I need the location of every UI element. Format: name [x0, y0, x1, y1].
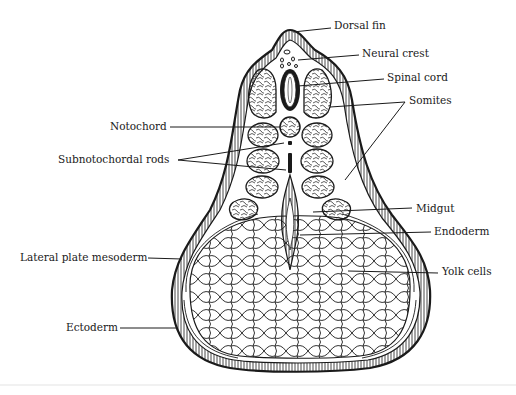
label-dorsal-fin: Dorsal fin [334, 20, 386, 31]
label-yolk-cells: Yolk cells [442, 266, 492, 277]
label-lateral-plate-mesoderm: Lateral plate mesoderm [20, 252, 148, 263]
label-somites: Somites [409, 95, 452, 106]
label-midgut: Midgut [416, 203, 455, 214]
label-endoderm: Endoderm [434, 226, 489, 237]
page-edge-line [0, 384, 516, 386]
spinal-cord [280, 69, 300, 111]
notochord [280, 117, 300, 137]
label-notochord: Notochord [110, 121, 167, 132]
label-neural-crest: Neural crest [362, 48, 429, 59]
label-spinal-cord: Spinal cord [387, 72, 448, 83]
label-subnotochordal-rods: Subnotochordal rods [58, 154, 169, 165]
embryo-cross-section-diagram: Dorsal fin Neural crest Spinal cord Somi… [0, 0, 516, 395]
yolk-mass [190, 216, 410, 359]
label-ectoderm: Ectoderm [66, 322, 118, 333]
diagram-drawing [0, 0, 516, 395]
